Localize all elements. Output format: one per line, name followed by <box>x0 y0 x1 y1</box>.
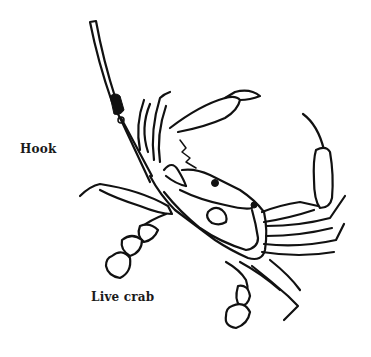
crab-claw-right <box>262 114 333 222</box>
crab-cheliped-top <box>170 91 260 168</box>
crab-on-hook-drawing <box>0 0 371 357</box>
illustration: Hook Live crab <box>0 0 371 357</box>
live-crab-label: Live crab <box>91 290 154 304</box>
hook-label: Hook <box>20 142 56 156</box>
crab-legs-bottom <box>226 260 300 328</box>
crab-legs-left <box>80 184 172 278</box>
crab-legs-right <box>262 196 345 255</box>
